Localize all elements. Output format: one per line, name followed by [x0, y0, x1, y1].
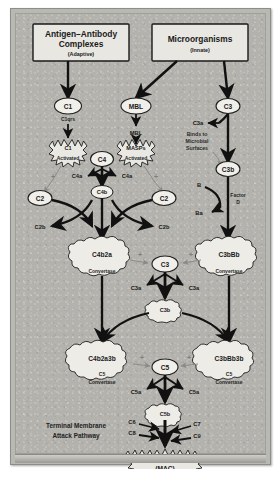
node-c3-top-label: C3: [224, 103, 233, 110]
arrow-c7-join: [171, 426, 191, 432]
plus-symbol-left-low: +: [140, 354, 144, 361]
node-mbl: MBL: [121, 98, 151, 114]
plus-symbol-right-low: +: [187, 354, 191, 361]
node-mbl-second-label: MBL: [130, 130, 143, 136]
node-c4b-label: C4b: [97, 189, 108, 195]
node-c1-activated-name: C1: [64, 145, 71, 151]
node-c3bbb3b-label: C3bBb3b: [215, 355, 244, 362]
binds-label-line1: Binds to: [187, 131, 208, 137]
node-c2-left: C2: [28, 191, 52, 206]
node-c5: C5: [152, 359, 178, 375]
label-c2b-right: C2b: [159, 224, 170, 230]
arrow-c3bbb-to-c3-mid: [183, 260, 201, 263]
diagram-canvas: Antigen–Antibody Complexes (Adaptive) Mi…: [16, 14, 275, 469]
classical-source-sub: (Adaptive): [68, 51, 95, 57]
node-masps-label: MASPs: [126, 145, 145, 151]
label-factor-b: B: [197, 182, 201, 188]
label-c5a-right: C5a: [189, 389, 200, 395]
curve-cross-to-c2b-left: [52, 200, 92, 226]
arrow-to-ba: [212, 208, 220, 212]
figure-plate: Antigen–Antibody Complexes (Adaptive) Mi…: [15, 13, 266, 454]
label-c9: C9: [193, 433, 201, 439]
arrow-c5-to-c5a-left: [147, 377, 165, 389]
node-c3-mid-label: C3: [161, 261, 170, 268]
label-c2b-left: C2b: [35, 224, 46, 230]
node-c2-left-label: C2: [36, 195, 45, 202]
label-c3a-mid-left: C3a: [131, 285, 142, 291]
node-c3b-mid: C3b: [145, 300, 181, 323]
curve-cross-to-c2b-right: [112, 200, 152, 226]
node-c3b-right: C3b: [216, 162, 240, 177]
caption-c4b2a3b-c5: C5: [99, 371, 106, 377]
plus-symbol-masp: +: [154, 173, 158, 180]
alternative-source-line1: Microorganisms: [168, 34, 233, 44]
node-masps-status: Activated: [125, 155, 148, 161]
stem-c3-to-c3a: [219, 114, 228, 123]
arrow-c4-to-c4a-right: [102, 169, 116, 176]
arrow-c4b2a3b-to-c5: [133, 364, 150, 366]
label-c8: C8: [128, 430, 136, 436]
plus-symbol-right-mid: +: [189, 251, 193, 258]
arrow-c8-join: [139, 435, 159, 438]
arrow-c4b2a-to-c3-mid: [130, 260, 148, 263]
arrow-c3-mid-to-c3a-left: [147, 274, 165, 285]
arrow-c9-join: [171, 438, 191, 441]
node-c5-label: C5: [161, 364, 170, 371]
arrow-c5-to-c5a-right: [165, 377, 183, 389]
classical-source-line1: Antigen–Antibody: [45, 29, 117, 39]
label-c3a-top: C3a: [193, 120, 204, 126]
label-factor-d-line2: D: [236, 199, 240, 205]
arrow-microorganisms-to-c3: [224, 61, 228, 98]
label-c6: C6: [128, 419, 136, 425]
caption-c4b2a3b-convertase: Convertase: [88, 379, 115, 385]
plus-symbol-left-mid: +: [138, 251, 142, 258]
node-c2-right-label: C2: [160, 195, 169, 202]
arrow-microorganisms-to-mbl: [136, 61, 177, 98]
node-c5b: C5b: [145, 404, 181, 427]
node-c1-label: C1: [64, 103, 73, 110]
binds-label-line2: Microbial: [186, 138, 209, 144]
caption-c3bbb-convertase: Convertase: [215, 268, 242, 274]
binds-label-line3: Surfaces: [186, 145, 208, 151]
label-c3a-mid-right: C3a: [189, 285, 200, 291]
node-c3-top: C3: [216, 99, 240, 114]
caption-c4b2a-convertase: Convertase: [88, 268, 115, 274]
caption-c3bbb3b-convertase: Convertase: [215, 379, 242, 385]
curve-c3b-to-c4b2a3b: [102, 313, 149, 342]
node-c4b2a-label: C4b2a: [92, 251, 112, 258]
node-c1: C1: [55, 98, 82, 114]
label-c5a-left: C5a: [131, 389, 142, 395]
alternative-source-sub: (Innate): [190, 47, 210, 53]
curve-b-to-c3bbb: [205, 187, 220, 208]
figure-frame: Antigen–Antibody Complexes (Adaptive) Mi…: [10, 8, 271, 465]
node-c4-label: C4: [98, 156, 107, 163]
label-factor-d-line1: Factor: [230, 192, 245, 198]
node-c1-activated: C1 Activated: [49, 140, 87, 168]
node-c4: C4: [91, 152, 114, 167]
node-c4b2a3b: C4b2a3b: [65, 340, 126, 380]
node-c1qrs-label: C1qrs: [61, 116, 75, 122]
label-c7: C7: [193, 421, 200, 427]
node-c4b2a3b-label: C4b2a3b: [88, 355, 116, 362]
node-c3bbb-label: C3bBb: [218, 251, 239, 258]
curve-c3b-to-c3bbb3b: [182, 313, 229, 342]
node-c4b: C4b: [91, 186, 113, 199]
terminal-pathway-line2: Attack Pathway: [52, 432, 100, 440]
source-box-alternative: Microorganisms (Innate): [152, 24, 248, 61]
complement-pathway-figure: Antigen–Antibody Complexes (Adaptive) Mi…: [0, 0, 279, 485]
source-box-classical: Antigen–Antibody Complexes (Adaptive): [33, 24, 129, 61]
plus-symbol-c1: +: [51, 173, 55, 180]
node-c2-right: C2: [152, 191, 176, 206]
arrow-c3-mid-to-c3a-right: [165, 274, 183, 285]
arrow-c4-to-c4a-left: [88, 169, 102, 176]
node-mbl-label: MBL: [129, 103, 143, 110]
node-c3-mid: C3: [152, 256, 178, 272]
caption-c3bbb3b-c5: C5: [226, 371, 233, 377]
terminal-pathway-line1: Terminal Membrane: [46, 422, 106, 429]
node-c5b-label: C5b: [160, 411, 171, 417]
label-factor-ba: Ba: [195, 210, 203, 216]
label-c4a-left: C4a: [72, 173, 83, 179]
curve-c2-left-to-c2b-right: [52, 200, 92, 226]
label-c4a-right: C4a: [122, 173, 133, 179]
node-c3b-right-label: C3b: [222, 166, 234, 173]
